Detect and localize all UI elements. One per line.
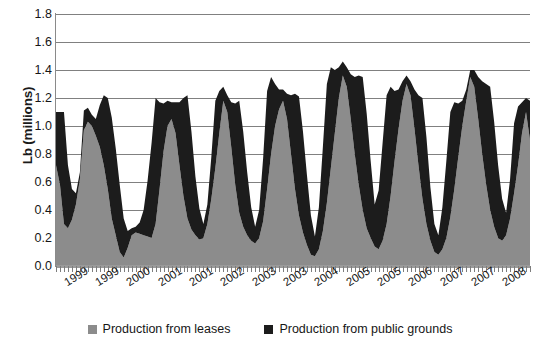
y-axis-tick-label: 0.6 bbox=[24, 176, 52, 189]
y-axis-tick-labels: 1.81.61.41.21.00.80.60.40.20.0 bbox=[20, 0, 52, 280]
y-axis-tick-label: 1.2 bbox=[24, 92, 52, 105]
chart-legend: Production from leasesProduction from pu… bbox=[0, 322, 540, 336]
stacked-area-chart: Lb (millions) 1.81.61.41.21.00.80.60.40.… bbox=[0, 0, 540, 350]
y-axis-tick-label: 0.8 bbox=[24, 148, 52, 161]
legend-entry-2[interactable]: Production from public grounds bbox=[264, 322, 452, 336]
y-axis-tick-label: 1.4 bbox=[24, 64, 52, 77]
legend-label: Production from public grounds bbox=[279, 322, 452, 336]
legend-label: Production from leases bbox=[103, 322, 231, 336]
y-axis-tick-label: 0.2 bbox=[24, 232, 52, 245]
y-axis-tick-label: 0.4 bbox=[24, 204, 52, 217]
legend-entry-1[interactable]: Production from leases bbox=[88, 322, 231, 336]
plot-svg bbox=[56, 14, 530, 266]
legend-swatch-icon bbox=[264, 325, 273, 334]
y-axis-tick-label: 1.0 bbox=[24, 120, 52, 133]
y-axis-tick-label: 1.8 bbox=[24, 8, 52, 21]
y-axis-tick-label: 1.6 bbox=[24, 36, 52, 49]
legend-swatch-icon bbox=[88, 325, 97, 334]
plot-area bbox=[56, 14, 530, 266]
y-axis-tick-label: 0.0 bbox=[24, 260, 52, 273]
x-axis-tick-labels: 1999199920002001200120022003200320042005… bbox=[0, 272, 540, 312]
